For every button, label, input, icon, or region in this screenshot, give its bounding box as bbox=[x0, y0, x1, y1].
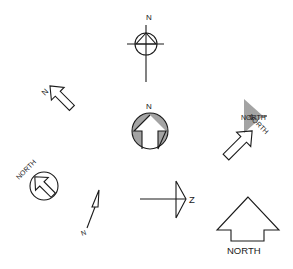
north-arrow-large-block: NORTH bbox=[217, 197, 279, 256]
north-label: NORTH bbox=[227, 245, 261, 256]
north-label: NORTH bbox=[15, 158, 37, 180]
north-arrow-symbols-diagram: N NORTH N N bbox=[0, 0, 293, 269]
arrow-outline-icon bbox=[219, 124, 259, 164]
block-arrow-icon bbox=[217, 197, 279, 241]
north-arrow-circle-diagonal bbox=[28, 170, 59, 201]
north-label: N bbox=[146, 102, 152, 111]
north-label: Z bbox=[189, 194, 195, 205]
arrow-shaft bbox=[87, 207, 95, 228]
north-arrow-circle-triangle: N bbox=[127, 13, 164, 82]
arrow-outline-icon bbox=[28, 170, 59, 201]
arrow-outline-icon bbox=[44, 80, 79, 115]
north-label: N bbox=[146, 13, 152, 22]
north-arrow-thin: N bbox=[80, 190, 99, 237]
north-arrow-outline-diagonal-left bbox=[44, 80, 79, 115]
north-label: N bbox=[39, 87, 50, 98]
north-arrow-half-sideways: Z bbox=[140, 181, 195, 218]
arrowhead-icon bbox=[92, 190, 99, 207]
north-arrow-hatched-circle: N bbox=[132, 102, 168, 152]
north-label: N bbox=[80, 229, 87, 237]
north-arrow-outline-diagonal-right bbox=[219, 124, 259, 164]
compass-circle bbox=[30, 172, 58, 200]
